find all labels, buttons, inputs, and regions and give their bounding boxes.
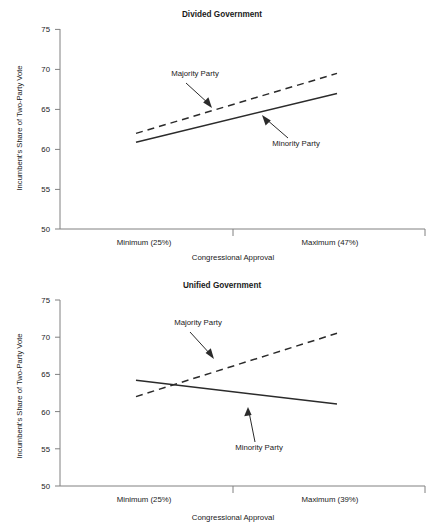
y-tick-label: 75 — [41, 296, 50, 305]
annotation-arrowhead-majority-party — [203, 97, 212, 108]
chart-panel-divided-government: Divided Government Incumbent's Share of … — [0, 0, 440, 266]
y-tick-label: 60 — [41, 408, 50, 417]
y-tick-label: 65 — [41, 105, 50, 114]
y-axis-label: Incumbent's Share of Two-Party Vote — [15, 334, 24, 459]
y-tick-label: 60 — [41, 145, 50, 154]
y-tick-label: 70 — [41, 333, 50, 342]
y-tick-label: 50 — [41, 225, 50, 234]
x-tick-label-right: Maximum (39%) — [302, 495, 359, 504]
x-tick-group: Minimum (25%) Maximum (39%) — [117, 486, 425, 504]
y-tick-group: 75 70 65 60 55 50 — [41, 296, 60, 491]
y-tick-label: 55 — [41, 185, 50, 194]
y-tick-group: 75 70 65 60 55 50 — [41, 25, 60, 234]
chart-title: Unified Government — [183, 281, 262, 290]
y-tick-label: 50 — [41, 482, 50, 491]
series-line-majority-party — [136, 333, 337, 396]
chart-panel-unified-government: Unified Government Incumbent's Share of … — [0, 266, 440, 532]
y-tick-label: 65 — [41, 370, 50, 379]
annotation-arrowhead-minority-party — [244, 407, 251, 416]
annotation-arrowhead-minority-party — [262, 115, 271, 126]
x-tick-label-right: Maximum (47%) — [302, 238, 359, 247]
x-tick-label-left: Minimum (25%) — [117, 238, 172, 247]
y-axis-label: Incumbent's Share of Two-Party Vote — [15, 66, 24, 191]
series-line-minority-party — [136, 380, 337, 404]
annotation-label-majority-party: Majority Party — [171, 69, 219, 78]
x-tick-label-left: Minimum (25%) — [117, 495, 172, 504]
y-tick-label: 75 — [41, 25, 50, 34]
x-tick-group: Minimum (25%) Maximum (47%) — [117, 229, 425, 247]
x-axis-label: Congressional Approval — [192, 513, 275, 522]
x-axis-label: Congressional Approval — [192, 253, 275, 262]
chart-title: Divided Government — [182, 10, 262, 19]
figure-container: Divided Government Incumbent's Share of … — [0, 0, 440, 532]
annotation-label-minority-party: Minority Party — [235, 443, 283, 452]
series-line-majority-party — [136, 73, 337, 133]
series-line-minority-party — [136, 93, 337, 142]
y-tick-label: 55 — [41, 445, 50, 454]
annotation-label-minority-party: Minority Party — [272, 139, 320, 148]
annotation-arrow-minority-party — [249, 412, 255, 442]
annotation-label-majority-party: Majority Party — [174, 318, 222, 327]
y-tick-label: 70 — [41, 65, 50, 74]
